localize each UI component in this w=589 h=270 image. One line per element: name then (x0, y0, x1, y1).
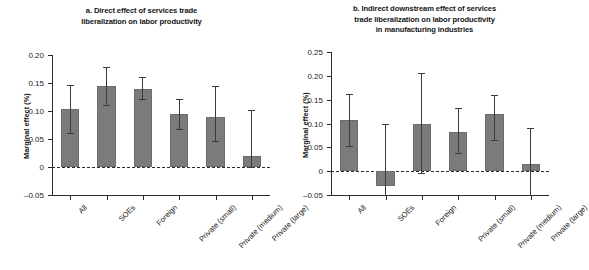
y-axis-line (331, 52, 332, 195)
error-cap-upper (212, 86, 219, 87)
error-cap-lower (212, 141, 219, 142)
error-cap-lower (139, 99, 146, 100)
error-bar (494, 95, 495, 140)
error-bar (349, 94, 350, 146)
error-cap-upper (139, 77, 146, 78)
x-axis-tick (458, 196, 459, 200)
y-axis-tick (48, 111, 52, 112)
panel-a-title: a. Direct effect of services trade liber… (0, 6, 283, 27)
x-axis-tick (495, 196, 496, 200)
y-axis-tick-label: –0.05 (303, 191, 323, 200)
error-bar (530, 128, 531, 195)
y-axis-tick (327, 100, 331, 101)
y-axis-tick-label: 0.20 (307, 71, 323, 80)
error-cap-upper (382, 124, 389, 125)
panel-a-title-line-1: a. Direct effect of services trade (16, 6, 267, 17)
x-axis-category-label: All (77, 203, 89, 215)
y-axis-line (52, 55, 53, 195)
x-axis-tick (216, 196, 217, 200)
y-axis-tick-label: –0.05 (24, 191, 44, 200)
error-bar (215, 86, 216, 141)
error-cap-upper (103, 67, 110, 68)
y-axis-tick (48, 139, 52, 140)
x-axis-tick (107, 196, 108, 200)
y-axis-tick (48, 55, 52, 56)
x-axis-tick (252, 196, 253, 200)
error-cap-lower (248, 167, 255, 168)
chart-panel-a: a. Direct effect of services trade liber… (0, 0, 283, 270)
x-axis-category-label: Private (small) (197, 203, 238, 244)
error-bar (142, 77, 143, 99)
y-axis-tick-label: 0.25 (307, 48, 323, 57)
error-bar (458, 108, 459, 153)
x-axis-category-label: Foreign (433, 203, 458, 228)
y-axis-tick (48, 83, 52, 84)
error-bar (251, 110, 252, 167)
panel-b-title-line-2: trade liberalization on labor productivi… (299, 15, 550, 26)
error-cap-upper (176, 99, 183, 100)
x-axis-category-label: All (356, 203, 368, 215)
x-axis-category-label: Private (medium) (515, 203, 562, 250)
y-axis-tick (48, 195, 52, 196)
panel-b-title-line-3: in manufacturing industries (299, 25, 550, 36)
y-axis-tick (327, 147, 331, 148)
error-cap-upper (418, 73, 425, 74)
y-axis-tick-label: 0.15 (28, 79, 44, 88)
x-axis-line (331, 195, 549, 196)
error-cap-lower (103, 105, 110, 106)
error-cap-upper (248, 110, 255, 111)
x-axis-category-label: Foreign (154, 203, 179, 228)
x-axis-category-label: Private (small) (476, 203, 517, 244)
error-cap-lower (491, 140, 498, 141)
y-axis-tick-label: 0.20 (28, 51, 44, 60)
x-axis-tick (386, 196, 387, 200)
x-axis-tick (179, 196, 180, 200)
error-cap-upper (455, 108, 462, 109)
y-axis-tick-label: 0 (319, 167, 323, 176)
y-axis-tick (327, 124, 331, 125)
x-axis-line (52, 195, 270, 196)
panel-b-y-axis-label: Marginal effect (%) (301, 92, 310, 158)
panel-a-title-line-2: liberalization on labor productivity (16, 17, 267, 28)
x-axis-tick (143, 196, 144, 200)
panel-b-title-line-1: b. Indirect downstream effect of service… (299, 4, 550, 15)
x-axis-category-label: Private (medium) (236, 203, 283, 250)
panel-b-title: b. Indirect downstream effect of service… (283, 4, 566, 36)
x-axis-tick (349, 196, 350, 200)
error-cap-lower (67, 133, 74, 134)
error-cap-lower (455, 153, 462, 154)
error-cap-lower (346, 146, 353, 147)
zero-reference-line (52, 167, 270, 168)
error-bar (106, 67, 107, 105)
error-bar (179, 99, 180, 129)
error-bar (70, 85, 71, 134)
panel-b-plot-area: 0.250.200.150.100.050–0.05AllSOEsForeign… (331, 52, 549, 195)
bar-foreign (134, 89, 152, 167)
chart-panel-b: b. Indirect downstream effect of service… (283, 0, 566, 270)
error-cap-upper (346, 94, 353, 95)
y-axis-tick (327, 52, 331, 53)
error-bar (385, 124, 386, 196)
x-axis-tick (422, 196, 423, 200)
x-axis-tick (70, 196, 71, 200)
y-axis-tick (327, 76, 331, 77)
x-axis-category-label: SOEs (116, 203, 136, 223)
zero-reference-line (331, 171, 549, 172)
y-axis-tick-label: 0 (40, 163, 44, 172)
error-cap-lower (418, 173, 425, 174)
error-cap-upper (527, 128, 534, 129)
error-cap-upper (491, 95, 498, 96)
y-axis-tick (327, 195, 331, 196)
panel-a-y-axis-label: Marginal effect (%) (22, 93, 31, 159)
panel-a-plot-area: 0.200.150.100.050–0.05AllSOEsForeignPriv… (52, 55, 270, 195)
error-cap-upper (67, 85, 74, 86)
error-cap-lower (176, 129, 183, 130)
x-axis-category-label: SOEs (395, 203, 415, 223)
error-bar (421, 73, 422, 172)
x-axis-tick (531, 196, 532, 200)
